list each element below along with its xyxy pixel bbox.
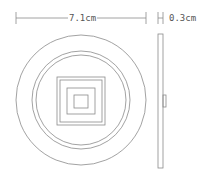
- diameter-label: 7.1cm: [68, 13, 97, 23]
- inner-square: [74, 95, 88, 108]
- thickness-label: 0.3cm: [168, 13, 197, 23]
- inner-circle: [36, 55, 126, 145]
- middle-circle: [32, 51, 130, 149]
- middle-square: [67, 88, 95, 114]
- outer-square: [57, 77, 105, 125]
- side-tab: [163, 95, 166, 107]
- front-view: [16, 35, 146, 165]
- outer-square-inner-edge: [60, 80, 102, 122]
- technical-drawing: [0, 0, 202, 179]
- thickness-dimension: [158, 12, 163, 24]
- side-view: [158, 34, 166, 168]
- outer-circle: [16, 35, 146, 165]
- side-body: [158, 34, 163, 168]
